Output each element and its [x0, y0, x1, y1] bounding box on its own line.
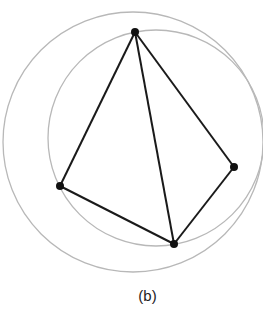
vertex-left: [56, 182, 64, 190]
edge: [174, 167, 234, 244]
figure-caption: (b): [0, 287, 263, 304]
vertex-bottom: [170, 240, 178, 248]
edge: [135, 32, 234, 167]
circle: [3, 12, 263, 272]
vertex-top: [131, 28, 139, 36]
vertex-right: [230, 163, 238, 171]
edge: [135, 32, 174, 244]
triangulation-edges: [60, 32, 234, 244]
circumcircles: [3, 12, 263, 272]
edge: [60, 32, 135, 186]
edge: [60, 186, 174, 244]
diagram-canvas: [0, 0, 263, 309]
